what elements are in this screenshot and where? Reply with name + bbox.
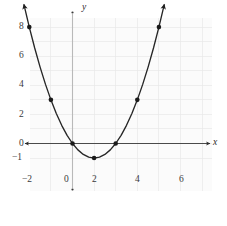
y-tick-label-2: 2 [19, 110, 24, 120]
plot-area-background [30, 18, 212, 191]
y-axis-bottom-cap [71, 188, 73, 190]
parabola-plot [0, 0, 227, 226]
data-point [135, 98, 140, 103]
data-point [27, 25, 32, 30]
y-tick-label-4: 4 [19, 80, 24, 90]
y-axis-top-cap [71, 11, 73, 13]
data-point [70, 141, 75, 146]
x-tick-label-0: 0 [64, 175, 69, 185]
x-tick-label-neg2: −2 [22, 175, 32, 185]
y-tick-label-8: 8 [19, 22, 24, 32]
y-tick-label-6: 6 [19, 51, 24, 61]
y-axis-label: y [82, 3, 86, 13]
y-tick-label-neg1: −1 [12, 153, 22, 163]
data-point [49, 98, 54, 103]
data-point [92, 156, 97, 161]
x-tick-label-2: 2 [92, 175, 97, 185]
x-axis-label: x [213, 138, 217, 148]
data-point [113, 141, 118, 146]
data-point [157, 25, 162, 30]
x-tick-label-6: 6 [179, 175, 184, 185]
graph-figure: 8 6 4 2 0 −1 −2 0 2 4 6 x y [0, 0, 227, 226]
y-tick-label-0: 0 [19, 139, 24, 149]
x-tick-label-4: 4 [135, 175, 140, 185]
